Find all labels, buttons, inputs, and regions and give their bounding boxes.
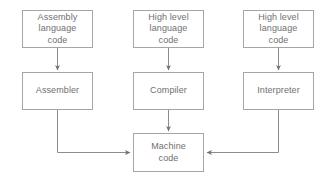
- node-interpreter-label: Interpreter: [255, 85, 302, 97]
- node-assembly-source-label: Assembly language code: [36, 12, 80, 47]
- node-machine-code: Machine code: [133, 133, 204, 172]
- node-assembly-source: Assembly language code: [22, 10, 93, 48]
- edge-assembler-to-machine-code: [58, 110, 131, 153]
- node-assembler-label: Assembler: [34, 85, 81, 97]
- node-highlevel-source-compiler: High level language code: [133, 10, 204, 48]
- node-highlevel-source-interpreter: High level language code: [243, 10, 314, 48]
- node-highlevel-source-compiler-label: High level language code: [146, 12, 191, 47]
- node-interpreter: Interpreter: [243, 72, 314, 110]
- node-compiler: Compiler: [133, 72, 204, 110]
- flowchart-diagram: Assembly language code High level langua…: [0, 0, 334, 183]
- node-highlevel-source-interpreter-label: High level language code: [256, 12, 301, 47]
- edge-interpreter-to-machine-code: [207, 110, 279, 153]
- node-machine-code-label: Machine code: [149, 141, 188, 164]
- node-compiler-label: Compiler: [148, 85, 189, 97]
- node-assembler: Assembler: [22, 72, 93, 110]
